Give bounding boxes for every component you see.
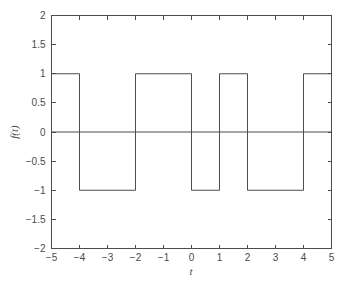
x-tick-label: −5 — [46, 252, 58, 263]
x-tick-label: −3 — [102, 252, 114, 263]
y-tick-label: 2 — [40, 10, 46, 21]
square-wave-plot: −5−4−3−2−1012345 −2−1.5−1−0.500.511.52 t… — [0, 0, 347, 287]
y-tick-label: 0.5 — [32, 97, 46, 108]
x-tick-label: 1 — [217, 252, 223, 263]
plot-background — [0, 0, 347, 287]
x-tick-label: 2 — [245, 252, 251, 263]
y-tick-label: 1.5 — [32, 39, 46, 50]
y-tick-label: −1.5 — [26, 214, 46, 225]
x-tick-label: −2 — [130, 252, 142, 263]
x-tick-label: 5 — [329, 252, 335, 263]
y-tick-label: 1 — [40, 68, 46, 79]
y-tick-label: −1 — [34, 185, 46, 196]
figure-canvas: −5−4−3−2−1012345 −2−1.5−1−0.500.511.52 t… — [0, 0, 347, 287]
x-tick-label: 0 — [189, 252, 195, 263]
y-tick-label: −2 — [34, 243, 46, 254]
y-tick-label: 0 — [40, 127, 46, 138]
x-tick-label: −1 — [158, 252, 170, 263]
y-axis-label: f(t) — [8, 125, 21, 139]
y-tick-label: −0.5 — [26, 156, 46, 167]
x-tick-label: 4 — [301, 252, 307, 263]
x-tick-label: −4 — [74, 252, 86, 263]
x-tick-label: 3 — [273, 252, 279, 263]
